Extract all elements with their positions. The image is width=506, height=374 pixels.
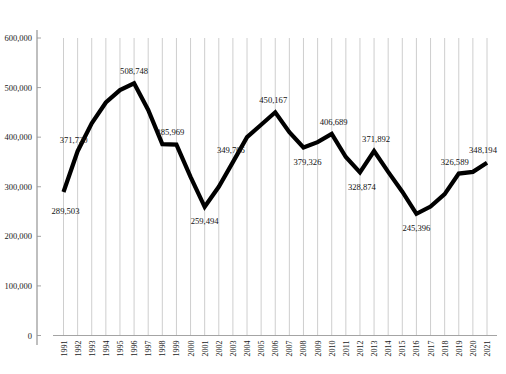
point-label-2006: 450,167	[259, 95, 288, 105]
x-tick-label-1993: 1993	[88, 341, 97, 357]
x-tick-label-2008: 2008	[299, 341, 308, 357]
line-chart: 0100,000200,000300,000400,000500,000600,…	[0, 0, 506, 374]
point-label-2019: 326,589	[441, 157, 469, 167]
y-tick-label-500000: 500,000	[4, 83, 32, 93]
chart-canvas: 0100,000200,000300,000400,000500,000600,…	[0, 0, 506, 374]
x-tick-label-2011: 2011	[342, 341, 351, 357]
x-tick-label-2009: 2009	[314, 341, 323, 357]
x-tick-label-2018: 2018	[441, 341, 450, 357]
x-tick-label-2017: 2017	[427, 341, 436, 357]
y-tick-label-300000: 300,000	[4, 182, 32, 192]
x-tick-label-2000: 2000	[187, 341, 196, 357]
point-label-2016: 245,396	[402, 223, 431, 233]
x-axis-tick-labels: 1991199219931994199519961997199819992000…	[60, 341, 493, 357]
x-tick-label-2004: 2004	[243, 341, 252, 357]
x-tick-label-2019: 2019	[455, 341, 464, 357]
x-tick-label-1991: 1991	[60, 341, 69, 357]
point-label-2012: 328,874	[348, 182, 377, 192]
x-tick-label-1999: 1999	[172, 341, 181, 357]
x-tick-label-2002: 2002	[215, 341, 224, 357]
x-tick-label-2016: 2016	[412, 341, 421, 357]
y-tick-label-200000: 200,000	[4, 231, 32, 241]
x-tick-label-2007: 2007	[285, 341, 294, 357]
x-tick-label-2014: 2014	[384, 341, 393, 357]
point-label-2001: 259,494	[191, 216, 220, 226]
y-tick-label-600000: 600,000	[4, 33, 32, 43]
y-tick-label-100000: 100,000	[4, 281, 32, 291]
x-tick-label-2010: 2010	[328, 341, 337, 357]
x-tick-label-2013: 2013	[370, 341, 379, 357]
x-tick-label-2005: 2005	[257, 341, 266, 357]
point-label-1992: 371,720	[60, 135, 88, 145]
point-label-2021: 348,194	[469, 145, 498, 155]
point-label-2003: 349,706	[217, 145, 246, 155]
x-tick-label-1996: 1996	[130, 341, 139, 357]
x-tick-label-2012: 2012	[356, 341, 365, 357]
x-tick-label-1995: 1995	[116, 341, 125, 357]
y-tick-label-400000: 400,000	[4, 132, 32, 142]
x-tick-label-2021: 2021	[483, 341, 492, 357]
point-label-1996: 508,748	[120, 66, 148, 76]
x-tick-label-2003: 2003	[229, 341, 238, 357]
x-tick-label-2001: 2001	[201, 341, 210, 357]
x-tick-label-1994: 1994	[102, 341, 111, 357]
x-tick-label-1998: 1998	[158, 341, 167, 357]
x-tick-label-2020: 2020	[469, 341, 478, 357]
x-tick-label-2015: 2015	[398, 341, 407, 357]
point-label-2013: 371,892	[362, 134, 390, 144]
point-label-1991: 289,503	[52, 206, 80, 216]
point-label-2008: 379,326	[294, 157, 323, 167]
x-tick-label-2006: 2006	[271, 341, 280, 357]
x-tick-label-1992: 1992	[74, 341, 83, 357]
y-tick-label-0: 0	[28, 331, 32, 341]
point-label-2010: 406,689	[320, 117, 348, 127]
x-tick-label-1997: 1997	[144, 341, 153, 357]
point-label-1998: 385,969	[156, 127, 184, 137]
